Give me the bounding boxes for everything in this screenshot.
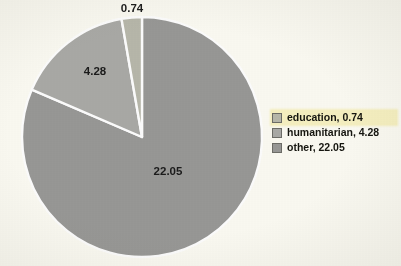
legend-label-humanitarian: humanitarian, 4.28 [287,127,379,138]
legend-label-other: other, 22.05 [287,142,345,153]
legend-item-other[interactable]: other, 22.05 [271,140,397,155]
legend-label-education: education, 0.74 [287,112,363,123]
legend-swatch-education [272,113,282,123]
chart-canvas: 0.74 4.28 22.05 education, 0.74 humanita… [0,0,401,266]
legend-item-education[interactable]: education, 0.74 [271,110,397,125]
data-label-humanitarian: 4.28 [84,65,107,77]
legend-swatch-other [272,143,282,153]
legend-swatch-humanitarian [272,128,282,138]
chart-legend: education, 0.74 humanitarian, 4.28 other… [271,110,397,155]
data-label-other: 22.05 [154,165,183,177]
data-label-education: 0.74 [121,2,144,14]
pie-slices [22,17,262,257]
legend-item-humanitarian[interactable]: humanitarian, 4.28 [271,125,397,140]
